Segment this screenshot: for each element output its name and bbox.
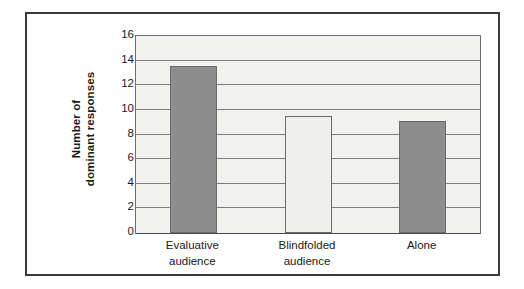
plot-area [135,35,481,234]
y-axis-tick-label: 14 [109,54,134,66]
gridline [136,60,480,61]
x-axis-category-labels: EvaluativeaudienceBlindfoldedaudienceAlo… [135,238,481,278]
y-axis-title: Number of dominant responses [63,44,103,214]
x-axis-category-label: Evaluativeaudience [135,238,250,269]
y-axis-tick-label: 10 [109,103,134,115]
x-axis-category-label-line: audience [250,254,365,270]
y-axis-tick-label: 16 [109,29,134,41]
bar [170,66,217,233]
x-axis-category-label-line: audience [135,254,250,270]
x-axis-category-label-line: Evaluative [135,238,250,254]
x-axis-category-label: Alone [364,238,479,254]
y-axis-title-line-2: dominant responses [83,72,97,186]
y-axis-tick-label: 2 [109,202,134,214]
y-axis-title-line-1: Number of [69,100,83,158]
bar [285,116,332,233]
x-axis-baseline [136,233,480,234]
x-axis-category-label: Blindfoldedaudience [250,238,365,269]
x-axis-category-label-line: Blindfolded [250,238,365,254]
y-axis-tick-label: 4 [109,177,134,189]
y-axis-tick-label: 8 [109,128,134,140]
y-axis-tick-labels: 0246810121416 [109,35,134,257]
chart-frame: Number of dominant responses 02468101214… [25,12,500,276]
bar [399,121,446,233]
y-axis-tick-label: 6 [109,152,134,164]
x-axis-category-label-line: Alone [364,238,479,254]
y-axis-tick-label: 12 [109,79,134,91]
y-axis-tick-label: 0 [109,226,134,238]
